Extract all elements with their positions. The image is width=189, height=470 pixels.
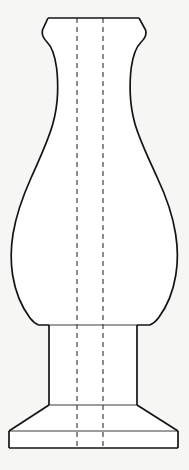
drawing-canvas [0,0,189,470]
vase-profile-figure [0,0,189,470]
